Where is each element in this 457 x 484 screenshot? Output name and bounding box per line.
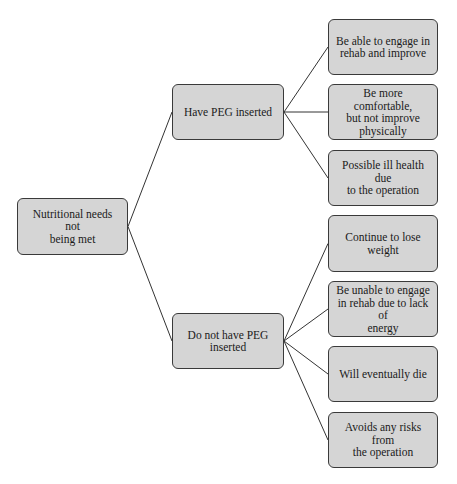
outcome-node-ill-health: Possible ill health due to the operation	[328, 150, 438, 206]
decision-tree-diagram: Nutritional needs not being met Have PEG…	[0, 0, 457, 484]
outcome-node-unable-rehab: Be unable to engage in rehab due to lack…	[328, 281, 438, 337]
outcome-node-rehab-improve: Be able to engage in rehab and improve	[328, 19, 438, 75]
outcome-label: Avoids any risks from the operation	[335, 421, 431, 459]
branch-label: Have PEG inserted	[184, 106, 272, 119]
outcome-label: Be unable to engage in rehab due to lack…	[335, 284, 431, 334]
connector-line	[128, 227, 172, 342]
connector-line	[284, 244, 328, 342]
root-node: Nutritional needs not being met	[17, 198, 128, 255]
outcome-label: Be more comfortable, but not improve phy…	[335, 87, 431, 137]
outcome-label: Continue to lose weight	[345, 231, 420, 256]
connector-line	[284, 341, 328, 440]
connector-line	[128, 112, 172, 227]
outcome-node-more-comfortable: Be more comfortable, but not improve phy…	[328, 84, 438, 140]
connector-line	[284, 47, 328, 112]
connector-line	[284, 112, 328, 178]
branch-node-no-peg: Do not have PEG inserted	[172, 313, 284, 369]
outcome-node-eventually-die: Will eventually die	[328, 346, 438, 402]
outcome-label: Possible ill health due to the operation	[335, 159, 431, 197]
connector-line	[284, 341, 328, 374]
outcome-label: Be able to engage in rehab and improve	[336, 35, 430, 60]
root-node-label: Nutritional needs not being met	[24, 208, 121, 246]
branch-node-have-peg: Have PEG inserted	[172, 84, 284, 140]
outcome-node-avoids-risks: Avoids any risks from the operation	[328, 412, 438, 468]
connector-line	[284, 309, 328, 341]
outcome-label: Will eventually die	[339, 368, 427, 381]
branch-label: Do not have PEG inserted	[188, 329, 269, 354]
outcome-node-lose-weight: Continue to lose weight	[328, 215, 438, 272]
